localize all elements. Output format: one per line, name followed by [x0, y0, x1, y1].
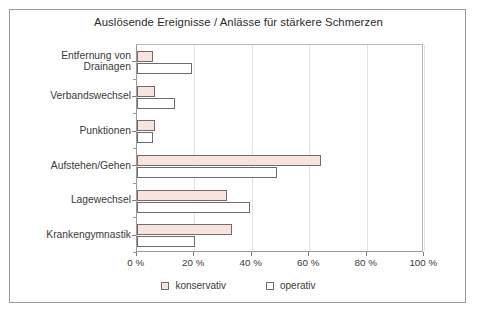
chart-figure: Auslösende Ereignisse / Anlässe für stär…: [0, 0, 477, 314]
x-axis-tick-label: 80 %: [355, 257, 377, 268]
bar-group: [137, 86, 423, 109]
x-axis-tick-label: 40 %: [240, 257, 262, 268]
bar-operativ: [137, 98, 176, 109]
bar-operativ: [137, 202, 250, 213]
y-axis-label: Aufstehen/Gehen: [11, 160, 131, 172]
y-axis-category-labels: Entfernung von DrainagenVerbandswechselP…: [8, 44, 131, 252]
bar-konservativ: [137, 120, 155, 131]
y-axis-minor-tick: [133, 183, 136, 184]
x-axis-tick: [193, 252, 194, 256]
x-axis-tick: [308, 252, 309, 256]
x-axis-tick-label: 0 %: [127, 257, 144, 268]
legend-item-operativ: operativ: [266, 280, 316, 291]
legend-item-konservativ: konservativ: [161, 280, 226, 291]
x-axis-tick-label: 100 %: [409, 257, 437, 268]
y-axis-tick: [132, 61, 136, 62]
y-axis-minor-tick: [133, 148, 136, 149]
legend-label: konservativ: [175, 280, 226, 291]
y-axis-minor-tick: [133, 252, 136, 253]
bar-group: [137, 155, 423, 178]
x-axis-tick: [423, 252, 424, 256]
y-axis-label: Verbandswechsel: [11, 90, 131, 102]
chart-legend: konservativoperativ: [0, 280, 477, 291]
bar-konservativ: [137, 86, 155, 97]
y-axis-label: Krankengymnastik: [11, 229, 131, 241]
x-axis-tick-label: 60 %: [297, 257, 319, 268]
y-axis-minor-tick: [133, 217, 136, 218]
y-axis-minor-tick: [133, 79, 136, 80]
bar-operativ: [137, 63, 192, 74]
x-axis-tick: [366, 252, 367, 256]
bar-konservativ: [137, 51, 153, 62]
bar-operativ: [137, 132, 153, 143]
legend-label: operativ: [280, 280, 316, 291]
legend-swatch-icon: [266, 282, 274, 290]
bar-operativ: [137, 236, 195, 247]
y-axis-minor-tick: [133, 113, 136, 114]
y-axis-tick: [132, 165, 136, 166]
y-axis-label: Punktionen: [11, 125, 131, 137]
bar-konservativ: [137, 155, 321, 166]
legend-swatch-icon: [161, 282, 169, 290]
x-axis-tick: [251, 252, 252, 256]
bar-group: [137, 51, 423, 74]
y-axis-tick: [132, 200, 136, 201]
y-axis-tick: [132, 96, 136, 97]
x-axis-tick: [136, 252, 137, 256]
y-axis-tick: [132, 131, 136, 132]
x-axis-tick-label: 20 %: [182, 257, 204, 268]
y-axis-tick: [132, 235, 136, 236]
chart-title: Auslösende Ereignisse / Anlässe für stär…: [0, 16, 477, 28]
plot-area: [136, 44, 424, 252]
y-axis-label: Entfernung von Drainagen: [11, 50, 131, 73]
bar-konservativ: [137, 224, 233, 235]
bar-operativ: [137, 167, 277, 178]
bar-konservativ: [137, 190, 227, 201]
bar-group: [137, 120, 423, 143]
y-axis-label: Lagewechsel: [11, 194, 131, 206]
bar-group: [137, 190, 423, 213]
bar-series-container: [137, 45, 423, 251]
bar-group: [137, 224, 423, 247]
gridline-100: [424, 45, 425, 251]
